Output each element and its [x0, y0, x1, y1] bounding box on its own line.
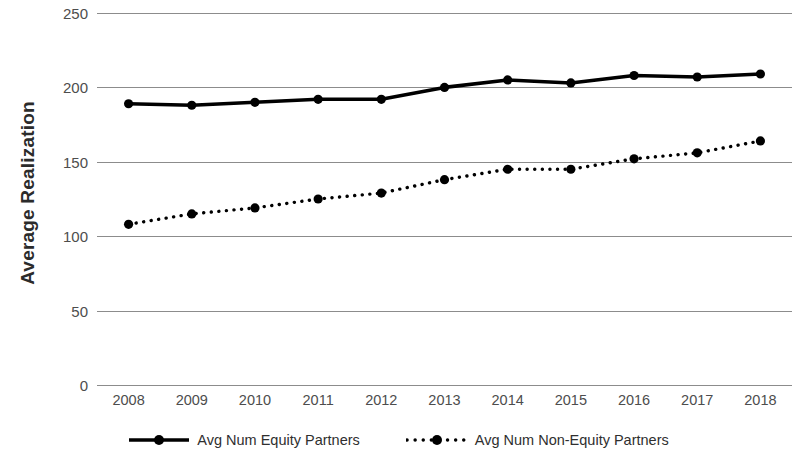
data-point-marker [440, 175, 449, 184]
legend-item: Avg Num Equity Partners [128, 432, 360, 448]
legend-label: Avg Num Non-Equity Partners [475, 432, 669, 448]
x-axis-tick-label: 2017 [666, 392, 728, 408]
data-point-marker [187, 209, 196, 218]
x-axis-tick-label: 2009 [161, 392, 223, 408]
x-axis-tick-label: 2013 [414, 392, 476, 408]
data-point-marker [503, 165, 512, 174]
data-point-marker [756, 136, 765, 145]
data-point-marker [250, 98, 259, 107]
legend-label: Avg Num Equity Partners [197, 432, 360, 448]
data-point-marker [629, 154, 638, 163]
data-series-layer [0, 0, 797, 458]
x-axis-tick-label: 2016 [603, 392, 665, 408]
data-point-marker [377, 95, 386, 104]
x-axis-tick-label: 2011 [287, 392, 349, 408]
data-point-marker [314, 194, 323, 203]
data-point-marker [250, 203, 259, 212]
legend-item: Avg Num Non-Equity Partners [406, 432, 669, 448]
chart-container: Average Realization 050100150200250 2008… [0, 0, 797, 458]
data-point-marker [440, 83, 449, 92]
data-point-marker [629, 71, 638, 80]
x-axis-tick-label: 2014 [477, 392, 539, 408]
data-point-marker [566, 78, 575, 87]
legend-dotted-line-icon [406, 433, 468, 447]
x-axis-tick-label: 2010 [224, 392, 286, 408]
data-point-marker [124, 220, 133, 229]
data-point-marker [756, 69, 765, 78]
x-axis-tick-label: 2015 [540, 392, 602, 408]
data-point-marker [693, 72, 702, 81]
chart-legend: Avg Num Equity PartnersAvg Num Non-Equit… [0, 432, 797, 448]
data-point-marker [503, 75, 512, 84]
data-point-marker [377, 188, 386, 197]
x-axis-tick-label: 2012 [350, 392, 412, 408]
x-axis-tick-label: 2018 [729, 392, 791, 408]
data-point-marker [693, 148, 702, 157]
legend-solid-line-icon [128, 433, 190, 447]
data-point-marker [187, 101, 196, 110]
data-point-marker [566, 165, 575, 174]
data-point-marker [314, 95, 323, 104]
x-axis-tick-label: 2008 [98, 392, 160, 408]
data-point-marker [124, 99, 133, 108]
